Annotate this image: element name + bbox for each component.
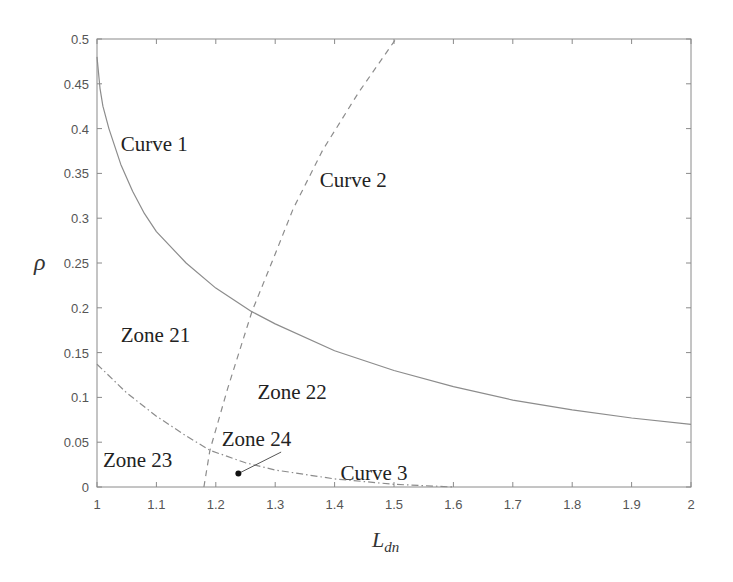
y-tick-label: 0.4 bbox=[71, 122, 89, 137]
series-curve-2 bbox=[204, 39, 396, 487]
annotation-curve-2: Curve 2 bbox=[320, 168, 387, 192]
series-curve-1 bbox=[97, 57, 691, 424]
y-tick-label: 0.35 bbox=[64, 166, 89, 181]
annotation-curve-3: Curve 3 bbox=[341, 461, 408, 485]
x-axis-label-subscript: dn bbox=[384, 539, 399, 555]
x-tick-label: 1.8 bbox=[563, 497, 581, 512]
x-axis-label: Ldn bbox=[371, 527, 399, 555]
y-tick-label: 0.1 bbox=[71, 390, 89, 405]
x-tick-label: 1.4 bbox=[326, 497, 344, 512]
x-tick-label: 1 bbox=[93, 497, 100, 512]
x-tick-label: 2 bbox=[687, 497, 694, 512]
annotation-zone-23: Zone 23 bbox=[103, 448, 172, 472]
annotation-zone-22: Zone 22 bbox=[257, 380, 326, 404]
y-tick-label: 0.05 bbox=[64, 435, 89, 450]
annotation-zone-21: Zone 21 bbox=[121, 323, 190, 347]
y-tick-label: 0.2 bbox=[71, 301, 89, 316]
x-tick-label: 1.5 bbox=[385, 497, 403, 512]
x-tick-label: 1.7 bbox=[504, 497, 522, 512]
x-axis-ticks: 11.11.21.31.41.51.61.71.81.92 bbox=[93, 39, 694, 512]
y-axis-ticks: 00.050.10.150.20.250.30.350.40.450.5 bbox=[64, 32, 691, 495]
annotations: Curve 1Curve 2Curve 3Zone 21Zone 22Zone … bbox=[103, 132, 408, 485]
x-axis-label-main: L bbox=[371, 527, 384, 552]
x-tick-label: 1.2 bbox=[207, 497, 225, 512]
y-tick-label: 0.15 bbox=[64, 346, 89, 361]
chart: 11.11.21.31.41.51.61.71.81.92 00.050.10.… bbox=[0, 0, 733, 582]
x-tick-label: 1.3 bbox=[266, 497, 284, 512]
marker-dot bbox=[235, 471, 241, 477]
y-tick-label: 0.5 bbox=[71, 32, 89, 47]
series-group bbox=[97, 39, 691, 487]
x-tick-label: 1.1 bbox=[147, 497, 165, 512]
zone-24-marker bbox=[235, 452, 281, 477]
y-tick-label: 0.45 bbox=[64, 77, 89, 92]
annotation-zone-24: Zone 24 bbox=[222, 427, 292, 451]
y-axis-label: ρ bbox=[33, 249, 46, 275]
y-tick-label: 0.25 bbox=[64, 256, 89, 271]
x-tick-label: 1.9 bbox=[623, 497, 641, 512]
annotation-curve-1: Curve 1 bbox=[121, 132, 188, 156]
x-tick-label: 1.6 bbox=[444, 497, 462, 512]
y-tick-label: 0.3 bbox=[71, 211, 89, 226]
y-tick-label: 0 bbox=[82, 480, 89, 495]
